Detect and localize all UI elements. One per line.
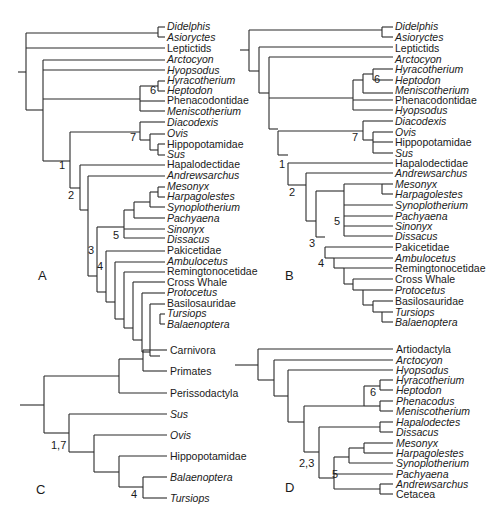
node-number-label: 5	[334, 215, 340, 227]
taxon-label: Perissodactyla	[170, 387, 238, 399]
panel-letter-label: A	[38, 268, 47, 283]
taxon-label: Hippopotamidae	[170, 450, 247, 462]
node-number-label: 5	[113, 229, 119, 241]
node-number-label: 2	[68, 189, 74, 201]
node-number-label: 6	[150, 84, 156, 96]
taxon-label: Carnivora	[170, 344, 216, 356]
panel-d-tree: ArtiodactylaArctocyonHyopsodusHyracother…	[235, 343, 470, 500]
node-number-label: 1	[59, 159, 65, 171]
panel-letter-label: D	[285, 480, 294, 495]
panel-c-tree: CarnivoraPrimatesPerissodactylaSusOvisHi…	[20, 344, 247, 504]
node-number-label: 3	[309, 237, 315, 249]
node-number-label: 7	[130, 131, 136, 143]
panel-letter-label: C	[36, 482, 45, 497]
panel-letter-label: B	[285, 268, 294, 283]
node-number-label: 4	[318, 257, 324, 269]
taxon-label: Sus	[170, 408, 189, 420]
node-number-label: 3	[88, 244, 94, 256]
node-number-label: 6	[374, 73, 380, 85]
taxon-label: Tursiops	[170, 492, 210, 504]
taxon-label: Balaenoptera	[167, 318, 230, 330]
panel-b-tree: DidelphisAsioryctesLeptictidsArctocyonHy…	[240, 20, 486, 328]
node-number-label: 6	[370, 386, 376, 398]
node-number-label: 2,3	[299, 457, 314, 469]
taxon-label: Balaenoptera	[170, 471, 233, 483]
taxon-label: Balaenoptera	[395, 316, 458, 328]
node-number-label: 2	[289, 186, 295, 198]
node-number-label: 7	[352, 131, 358, 143]
taxon-label: Ovis	[170, 429, 192, 441]
node-number-label: 5	[332, 468, 338, 480]
panel-a-tree: DidelphisAsioryctesLeptictidsArctocyonHy…	[18, 20, 258, 356]
node-number-label: 4	[97, 260, 103, 272]
taxon-label: Cetacea	[396, 488, 435, 500]
node-number-label: 1	[279, 158, 285, 170]
phylogeny-figure: DidelphisAsioryctesLeptictidsArctocyonHy…	[0, 0, 494, 514]
node-number-label: 4	[131, 488, 137, 500]
node-number-label: 1,7	[51, 439, 66, 451]
taxon-label: Primates	[170, 365, 211, 377]
